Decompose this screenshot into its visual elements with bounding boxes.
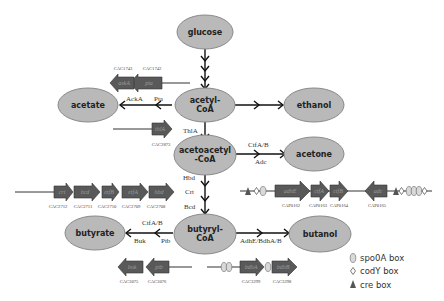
operon-bdh: bdhA bdhB CAC3299 CAC3298 (207, 258, 297, 284)
glucose-to-acetylcoa-arrow (201, 45, 209, 90)
acetoacetylcoa-to-butyrylcoa-arrow (201, 175, 209, 216)
node-butanol: butanol (289, 216, 351, 252)
gene-adhe-label: adhE (284, 188, 297, 194)
node-acetoacetyl-coa: acetoacetyl -CoA (174, 135, 236, 175)
locus-cap0164: CAP0164 (330, 203, 349, 208)
locus-cac2873: CAC2873 (152, 142, 171, 147)
legend: spo0A box codY box cre box (350, 253, 404, 290)
enzyme-ptb: Ptb (161, 237, 171, 245)
enzyme-adhe-bdha-b: AdhE/BdhA/B (240, 237, 282, 245)
enzyme-ctfab-bottom: CtfA/B (142, 219, 163, 227)
cre-box-icon (350, 280, 356, 288)
node-butyrate: butyrate (65, 216, 125, 250)
cody-box-icon (254, 188, 259, 195)
cody-box-icon (399, 188, 404, 195)
locus-cap0163: CAP0163 (309, 203, 328, 208)
enzyme-crt: Crt (185, 188, 194, 196)
locus-cac3299: CAC3299 (242, 279, 261, 284)
gene-hbd-label: hbd (155, 189, 165, 195)
locus-cac2710: CAC2710 (98, 204, 117, 209)
enzyme-acka: AckA (126, 95, 143, 103)
node-glucose-label: glucose (188, 28, 223, 37)
legend-item-cody: codY box (351, 266, 399, 276)
spo0a-box-icon (350, 254, 356, 263)
gene-thla-label: thlA (155, 126, 165, 132)
butyrylcoa-to-butyrate-arrow (126, 229, 173, 237)
locus-cac3076: CAC3076 (148, 279, 167, 284)
enzyme-pta: Pta (154, 95, 164, 103)
locus-cac2712: CAC2712 (49, 204, 68, 209)
enzyme-hbd: Hbd (183, 174, 196, 182)
node-acetyl-coa-label-1: acetyl- (190, 96, 221, 105)
gene-ptb-label: ptb (154, 264, 163, 270)
legend-label-cody: codY box (360, 266, 399, 276)
enzyme-buk: Buk (134, 237, 146, 245)
gene-bcd-label: bcd (81, 189, 91, 195)
enzyme-ctfab-top: CtfA/B (248, 141, 269, 149)
gene-bdhb-label: bdhB (277, 264, 290, 270)
locus-cap0165: CAP0165 (368, 203, 387, 208)
legend-label-spo0a: spo0A box (360, 253, 404, 263)
node-acetone: acetone (284, 137, 344, 171)
gene-adc-label: adc (374, 188, 383, 194)
gene-crt-label: crt (59, 189, 66, 195)
enzyme-adc: Adc (255, 158, 267, 166)
enzyme-bcd: Bcd (184, 203, 196, 211)
gene-etfa-label: etfA (128, 189, 138, 195)
legend-label-cre: cre box (360, 280, 391, 290)
gene-ctfa-label: ctfA (314, 188, 324, 194)
operon-bcs: crt bcd etfB etfA hbd CAC2712 CAC2711 CA… (15, 183, 174, 209)
node-ethanol-label: ethanol (297, 101, 332, 110)
gene-buk-label: buk (128, 264, 137, 270)
node-glucose: glucose (177, 15, 233, 49)
cody-box-icon (422, 188, 427, 195)
gene-aska-label: askA (118, 80, 130, 86)
acetoacetylcoa-to-acetone-arrow (236, 150, 285, 158)
node-butyryl-coa-label-2: CoA (196, 234, 214, 243)
legend-item-spo0a: spo0A box (350, 253, 404, 263)
locus-cac3075: CAC3075 (120, 279, 139, 284)
spo0a-box-icon (265, 263, 271, 272)
locus-cap0162: CAP0162 (282, 203, 301, 208)
node-acetate: acetate (58, 88, 118, 122)
node-butanol-label: butanol (303, 230, 338, 239)
gene-etfb-label: etfB (104, 189, 114, 195)
node-butyrate-label: butyrate (75, 229, 115, 238)
operon-thl: thlA CAC2873 (113, 120, 172, 147)
node-butyryl-coa: butyryl- CoA (174, 214, 236, 254)
node-acetoacetyl-coa-label-2: -CoA (195, 155, 217, 164)
enzyme-thla: ThlA (183, 127, 198, 135)
legend-item-cre: cre box (350, 280, 391, 290)
operon-ptb-buk: ptb buk CAC3075 CAC3076 (118, 258, 192, 284)
node-butyryl-coa-label-1: butyryl- (187, 225, 223, 234)
locus-cac1743: CAC1743 (114, 66, 133, 71)
node-acetyl-coa-label-2: CoA (196, 105, 214, 114)
node-acetyl-coa: acetyl- CoA (175, 88, 235, 122)
spo0a-box-icon (226, 263, 232, 272)
gene-bdha-label: bdhA (245, 264, 258, 270)
node-ethanol: ethanol (284, 88, 344, 122)
operon-ack-pta: pta askA CAC1743 CAC1742 (110, 66, 190, 92)
cody-box-icon (351, 268, 356, 275)
locus-cac2709: CAC2709 (122, 204, 141, 209)
spo0a-box-icon (260, 187, 266, 196)
locus-cac2708: CAC2708 (147, 204, 166, 209)
acetylcoa-to-ethanol-arrow (235, 101, 283, 109)
spo0a-box-icon (416, 187, 422, 196)
node-acetate-label: acetate (71, 101, 106, 110)
locus-cac3298: CAC3298 (273, 279, 292, 284)
locus-cac2711: CAC2711 (74, 204, 93, 209)
node-acetoacetyl-coa-label-1: acetoacetyl (179, 146, 231, 155)
node-acetone-label: acetone (296, 150, 333, 159)
pathway-diagram: glucose acetyl- CoA acetate ethanol acet… (0, 0, 444, 301)
operon-sol: adhE ctfA ctfB adc CAP0162 CAP0163 CAP01… (240, 181, 432, 208)
gene-ctfb-label: ctfB (333, 188, 343, 194)
butyrylcoa-to-butanol-arrow (236, 229, 289, 237)
locus-cac1742: CAC1742 (143, 66, 162, 71)
gene-pta-label: pta (144, 80, 153, 86)
